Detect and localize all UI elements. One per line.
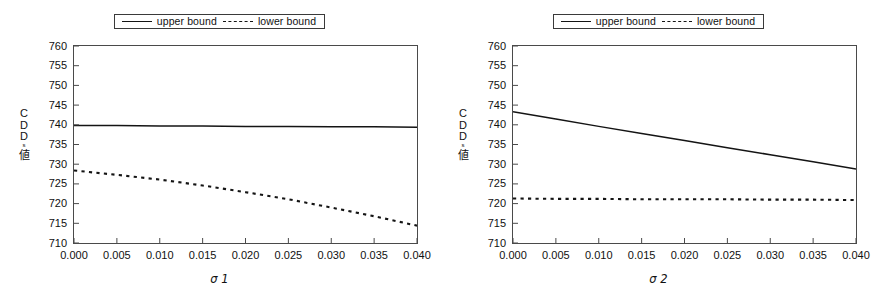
y-tick-label: 740 (476, 119, 506, 130)
y-tick-label: 760 (476, 41, 506, 52)
x-tick-label: 0.005 (95, 250, 139, 261)
y-tick-label: 750 (476, 80, 506, 91)
dashed-line-swatch-icon (223, 21, 253, 22)
dashed-line-swatch-icon (662, 21, 692, 22)
x-tick-label: 0.000 (52, 250, 96, 261)
x-tick-label: 0.030 (748, 250, 792, 261)
solid-line-swatch-icon (561, 21, 591, 22)
y-tick-label: 710 (37, 238, 67, 249)
plot-canvas (74, 46, 417, 243)
series-line-upper-bound (513, 112, 856, 169)
legend: upper bound lower bound (0, 14, 439, 29)
y-tick-label: 730 (476, 159, 506, 170)
y-axis-label-char-0: C (16, 108, 32, 120)
plot-area (73, 45, 418, 244)
legend-label-lower-bound: lower bound (696, 16, 756, 27)
x-tick-label: 0.040 (834, 250, 878, 261)
legend: upper bound lower bound (439, 14, 878, 29)
y-tick-label: 740 (37, 119, 67, 130)
legend-box: upper bound lower bound (114, 14, 325, 29)
y-tick-label: 735 (37, 139, 67, 150)
y-axis-label: C D D s 値 (455, 108, 471, 162)
x-tick-label: 0.025 (266, 250, 310, 261)
series-line-lower-bound (74, 171, 417, 226)
y-axis-label-char-4: 値 (455, 149, 471, 162)
x-axis-label-text: σ 1 (210, 272, 228, 286)
y-tick-label: 710 (476, 238, 506, 249)
legend-label-upper-bound: upper bound (156, 16, 218, 27)
legend-item-upper-bound: upper bound (561, 16, 657, 27)
chart-panel-sigma2: upper bound lower bound C D D s 値 σ 2 71… (439, 0, 878, 300)
y-axis-label: C D D s 値 (16, 108, 32, 162)
y-tick-label: 725 (37, 178, 67, 189)
x-tick-label: 0.040 (395, 250, 439, 261)
y-tick-label: 720 (37, 198, 67, 209)
plot-area (512, 45, 857, 244)
legend-item-lower-bound: lower bound (657, 16, 756, 27)
y-axis-label-char-3: s (455, 142, 471, 148)
y-axis-label-char-4: 値 (16, 149, 32, 162)
x-axis-label-text: σ 2 (649, 272, 667, 286)
legend-item-lower-bound: lower bound (218, 16, 317, 27)
x-tick-label: 0.025 (705, 250, 749, 261)
x-tick-label: 0.010 (577, 250, 621, 261)
y-tick-label: 755 (37, 60, 67, 71)
x-tick-label: 0.030 (309, 250, 353, 261)
y-axis-label-char-0: C (455, 108, 471, 120)
x-tick-label: 0.035 (352, 250, 396, 261)
x-tick-label: 0.005 (534, 250, 578, 261)
x-axis-label: σ 2 (439, 272, 878, 286)
x-tick-label: 0.015 (620, 250, 664, 261)
y-axis-label-char-3: s (16, 142, 32, 148)
legend-item-upper-bound: upper bound (122, 16, 218, 27)
chart-panel-sigma1: upper bound lower bound C D D s 値 σ 1 71… (0, 0, 439, 300)
series-line-lower-bound (513, 198, 856, 200)
legend-label-lower-bound: lower bound (257, 16, 317, 27)
x-tick-label: 0.000 (491, 250, 535, 261)
x-tick-label: 0.010 (138, 250, 182, 261)
y-tick-label: 715 (476, 218, 506, 229)
figure-row: upper bound lower bound C D D s 値 σ 1 71… (0, 0, 878, 300)
y-tick-label: 750 (37, 80, 67, 91)
y-tick-label: 720 (476, 198, 506, 209)
y-tick-label: 760 (37, 41, 67, 52)
legend-label-upper-bound: upper bound (595, 16, 657, 27)
x-tick-label: 0.015 (181, 250, 225, 261)
x-tick-label: 0.035 (791, 250, 835, 261)
series-line-upper-bound (74, 126, 417, 128)
legend-box: upper bound lower bound (553, 14, 764, 29)
y-tick-label: 715 (37, 218, 67, 229)
x-axis-label: σ 1 (0, 272, 439, 286)
solid-line-swatch-icon (122, 21, 152, 22)
y-tick-label: 730 (37, 159, 67, 170)
x-tick-label: 0.020 (663, 250, 707, 261)
x-tick-label: 0.020 (224, 250, 268, 261)
y-tick-label: 725 (476, 178, 506, 189)
plot-canvas (513, 46, 856, 243)
y-tick-label: 745 (37, 100, 67, 111)
y-tick-label: 735 (476, 139, 506, 150)
y-tick-label: 745 (476, 100, 506, 111)
y-tick-label: 755 (476, 60, 506, 71)
